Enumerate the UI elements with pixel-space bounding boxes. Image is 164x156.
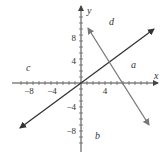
x-tick-label-neg4: −4 xyxy=(47,86,57,96)
y-axis-label: y xyxy=(86,5,92,16)
decreasing-line xyxy=(88,28,118,76)
x-tick-label-neg8: −8 xyxy=(24,86,34,96)
y-tick-label-neg8: −8 xyxy=(66,126,76,136)
region-label-c: c xyxy=(26,62,31,73)
y-tick-label-neg4: −4 xyxy=(66,102,76,112)
region-label-b: b xyxy=(95,130,100,141)
y-tick-label-4: 4 xyxy=(72,56,77,66)
coordinate-plane: −8 −4 4 8 4 −4 −8 x y d a c b xyxy=(0,0,164,156)
x-tick-label-4: 4 xyxy=(103,86,108,96)
x-axis-label: x xyxy=(153,70,159,81)
y-tick-label-8: 8 xyxy=(72,33,77,43)
region-label-a: a xyxy=(131,59,136,70)
region-label-d: d xyxy=(109,16,115,27)
